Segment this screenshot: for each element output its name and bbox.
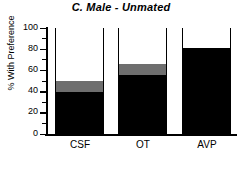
y-tick-label-80: 80	[2, 44, 38, 53]
y-tick-label-40: 40	[2, 86, 38, 95]
bar-avp[interactable]	[182, 28, 231, 134]
x-tick-label-ot: OT	[113, 139, 173, 150]
bar-ot[interactable]	[118, 28, 167, 134]
bar-ot-white-segment	[119, 27, 166, 64]
x-axis-line	[45, 134, 237, 136]
y-tick-label-100: 100	[2, 23, 38, 32]
bar-ot-gray-segment	[119, 64, 166, 75]
chart-title: C. Male - Unmated	[0, 1, 242, 13]
bar-csf-black-segment	[56, 92, 103, 133]
bar-csf-white-segment	[56, 27, 103, 81]
y-tick-label-20: 20	[2, 107, 38, 116]
bar-csf-gray-segment	[56, 81, 103, 92]
plot-area	[46, 28, 236, 134]
chart-figure: C. Male - Unmated % With Preference 100 …	[0, 0, 242, 170]
bar-avp-white-segment	[183, 27, 230, 48]
y-tick-label-0: 0	[2, 129, 38, 138]
x-tick-label-csf: CSF	[50, 139, 110, 150]
bar-avp-black-segment	[183, 48, 230, 133]
bar-csf[interactable]	[55, 28, 104, 134]
y-tick-label-60: 60	[2, 65, 38, 74]
x-tick-label-avp: AVP	[177, 139, 237, 150]
bar-ot-black-segment	[119, 75, 166, 133]
